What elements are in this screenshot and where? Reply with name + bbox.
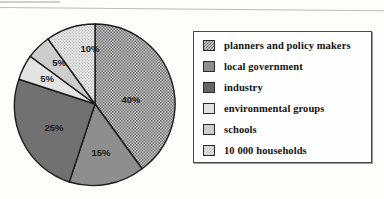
legend-swatch-icon-industry (203, 82, 215, 93)
pie-label-25: 25% (44, 122, 64, 133)
pie-label-40: 40% (121, 94, 141, 105)
pie-chart: 40% 15% 25% 5% 5% 10% (13, 12, 179, 192)
legend-swatch-icon-local-government (203, 61, 215, 72)
pie-chart-svg: 40% 15% 25% 5% 5% 10% (13, 12, 179, 192)
legend: planners and policy makers local governm… (193, 31, 372, 163)
legend-label-industry: industry (224, 82, 263, 93)
legend-label-10-000-households: 10 000 households (224, 145, 307, 156)
legend-swatch-icon-planners-and-policy-makers (203, 40, 215, 51)
legend-label-environmental-groups: environmental groups (224, 103, 325, 114)
legend-item-10-000-households[interactable]: 10 000 households (203, 140, 369, 161)
legend-item-local-government[interactable]: local government (203, 56, 369, 77)
pie-label-10: 10% (80, 43, 100, 54)
legend-item-industry[interactable]: industry (203, 77, 369, 98)
legend-swatch-icon-schools (203, 124, 215, 135)
legend-swatch-icon-10-000-households (203, 145, 215, 156)
pie-label-15: 15% (91, 147, 111, 158)
legend-label-planners-and-policy-makers: planners and policy makers (224, 40, 351, 51)
legend-label-local-government: local government (224, 61, 303, 72)
legend-list: planners and policy makers local governm… (203, 35, 369, 161)
legend-swatch-icon-environmental-groups (203, 103, 215, 114)
pie-label-5-environmental: 5% (40, 73, 54, 84)
legend-label-schools: schools (224, 124, 257, 135)
legend-item-planners-and-policy-makers[interactable]: planners and policy makers (203, 35, 369, 56)
legend-item-schools[interactable]: schools (203, 119, 369, 140)
legend-item-environmental-groups[interactable]: environmental groups (203, 98, 369, 119)
scan-artifact-line (0, 7, 384, 11)
pie-label-5-schools: 5% (52, 57, 66, 68)
pie-chart-screenshot: 40% 15% 25% 5% 5% 10% planners and polic… (0, 0, 384, 199)
scan-artifact-top (0, 1, 60, 3)
